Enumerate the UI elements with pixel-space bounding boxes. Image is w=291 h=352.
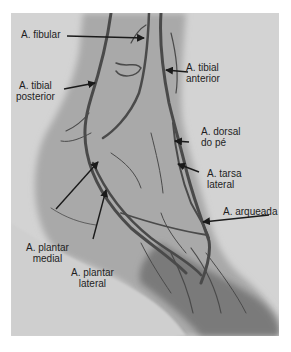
label-line: medial (26, 253, 69, 264)
angiogram-figure: A. fibular A. tibial anterior A. tibial … (11, 13, 279, 336)
label-tarsa-lateral: A. tarsa lateral (207, 168, 241, 190)
label-line: A. dorsal (201, 126, 240, 137)
label-fibular: A. fibular (21, 29, 60, 40)
label-line: lateral (71, 278, 114, 289)
label-dorsal-pe: A. dorsal do pé (201, 126, 240, 148)
label-line: lateral (207, 179, 241, 190)
label-line: do pé (201, 137, 240, 148)
label-tibial-anterior: A. tibial anterior (186, 62, 220, 84)
label-line: A. arqueada (223, 206, 278, 217)
label-line: posterior (16, 91, 55, 102)
label-plantar-lateral: A. plantar lateral (71, 267, 114, 289)
label-line: A. plantar (26, 242, 69, 253)
label-arqueada: A. arqueada (223, 206, 278, 217)
label-line: A. fibular (21, 29, 60, 40)
label-line: A. tibial (186, 62, 220, 73)
label-tibial-posterior: A. tibial posterior (16, 80, 55, 102)
label-line: A. tibial (16, 80, 55, 91)
label-line: anterior (186, 73, 220, 84)
label-line: A. plantar (71, 267, 114, 278)
label-plantar-medial: A. plantar medial (26, 242, 69, 264)
label-line: A. tarsa (207, 168, 241, 179)
